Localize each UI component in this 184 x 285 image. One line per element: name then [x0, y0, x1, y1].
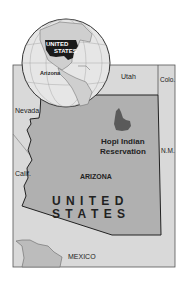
globe-arizona-label: Arizona — [40, 70, 60, 76]
utah-label: Utah — [121, 73, 136, 80]
map-canvas — [0, 0, 184, 285]
globe-us-label-line1: UNITED — [46, 41, 68, 47]
nevada-label: Nevada — [15, 107, 39, 114]
state-label-arizona: ARIZONA — [80, 173, 112, 180]
new-mexico-label: N.M. — [161, 147, 175, 154]
hopi-reservation-label-line2: Reservation — [100, 147, 146, 156]
hopi-reservation-label-line1: Hopi Indian — [101, 137, 145, 146]
country-label-line1: U N I T E D — [52, 194, 124, 208]
globe-inset — [22, 19, 110, 107]
globe-us-label-line2: STATES — [54, 48, 77, 54]
colorado-label: Colo. — [160, 76, 175, 83]
mexico-label: MEXICO — [68, 253, 96, 260]
california-label: Calif. — [15, 170, 31, 177]
country-label-line2: S T A T E S — [52, 207, 126, 221]
